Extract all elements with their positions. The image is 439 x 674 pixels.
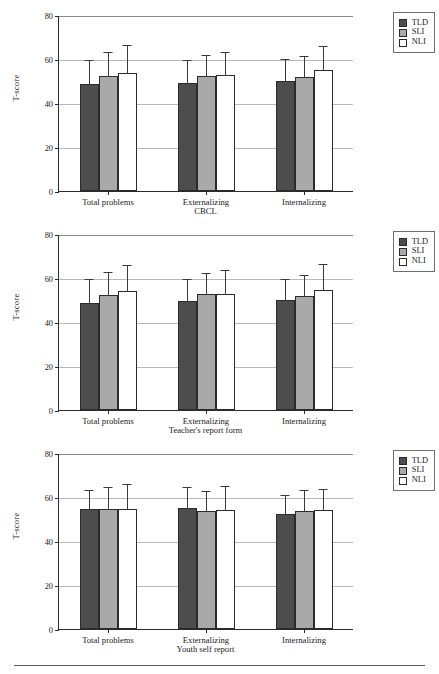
legend-item-sli[interactable]: SLI (399, 28, 428, 36)
bar-nli[interactable] (314, 454, 333, 629)
bar-rect (197, 511, 216, 629)
bar-tld[interactable] (178, 16, 197, 191)
bar-rect (118, 73, 137, 191)
y-tick-label: 20 (45, 363, 59, 372)
y-tick-label: 0 (49, 407, 59, 416)
legend-swatch-icon (399, 258, 407, 266)
bar-rect (197, 294, 216, 410)
x-tick-mark (304, 191, 305, 195)
bar-rect (80, 84, 99, 191)
error-bar-cap (281, 279, 290, 280)
error-bar (225, 486, 226, 512)
x-axis-title: CBCL (58, 206, 353, 216)
error-bar-cap (183, 487, 192, 488)
bar-tld[interactable] (276, 16, 295, 191)
error-bar (285, 59, 286, 82)
legend-item-sli[interactable]: SLI (399, 466, 428, 474)
error-bar (304, 490, 305, 512)
error-bar-cap (85, 279, 94, 280)
bar-sli[interactable] (197, 454, 216, 629)
bar-sli[interactable] (295, 454, 314, 629)
error-bar (108, 487, 109, 510)
error-bar (285, 495, 286, 515)
error-bar (187, 487, 188, 510)
legend-swatch-icon (399, 457, 407, 465)
bars (255, 454, 353, 629)
bar-tld[interactable] (178, 454, 197, 629)
legend-item-nli[interactable]: NLI (399, 38, 428, 46)
error-bar-cap (319, 489, 328, 490)
bar-nli[interactable] (216, 235, 235, 410)
bars (255, 235, 353, 410)
error-bar (323, 46, 324, 72)
bar-nli[interactable] (118, 16, 137, 191)
error-bar-cap (221, 52, 230, 53)
legend-item-sli[interactable]: SLI (399, 247, 428, 255)
error-bar-cap (104, 272, 113, 273)
bar-sli[interactable] (99, 16, 118, 191)
bar-rect (178, 508, 197, 629)
error-bar (127, 265, 128, 293)
bar-tld[interactable] (178, 235, 197, 410)
error-bar-cap (104, 487, 113, 488)
legend-item-tld[interactable]: TLD (399, 457, 428, 465)
bar-sli[interactable] (99, 454, 118, 629)
bar-rect (314, 290, 333, 410)
bars (59, 454, 157, 629)
bar-sli[interactable] (197, 16, 216, 191)
bar-tld[interactable] (276, 235, 295, 410)
y-axis-title: T-score (11, 75, 21, 102)
bottom-rule (14, 665, 425, 666)
error-bar (323, 264, 324, 290)
legend-item-nli[interactable]: NLI (399, 476, 428, 484)
bar-nli[interactable] (216, 16, 235, 191)
bar-rect (216, 75, 235, 191)
bar-tld[interactable] (80, 454, 99, 629)
bar-rect (80, 509, 99, 629)
legend-item-tld[interactable]: TLD (399, 238, 428, 246)
bar-rect (118, 509, 137, 629)
error-bar-cap (104, 52, 113, 53)
legend-swatch-icon (399, 248, 407, 256)
error-bar (206, 273, 207, 295)
bar-sli[interactable] (295, 235, 314, 410)
legend-item-nli[interactable]: NLI (399, 257, 428, 265)
legend-label: SLI (412, 247, 425, 255)
bar-tld[interactable] (80, 235, 99, 410)
bar-tld[interactable] (80, 16, 99, 191)
bar-nli[interactable] (118, 235, 137, 410)
bar-tld[interactable] (276, 454, 295, 629)
error-bar-cap (202, 55, 211, 56)
bar-nli[interactable] (314, 235, 333, 410)
legend-swatch-icon (399, 477, 407, 485)
bar-nli[interactable] (118, 454, 137, 629)
x-tick-mark (206, 410, 207, 414)
error-bar-cap (202, 273, 211, 274)
error-bar-cap (281, 59, 290, 60)
legend-swatch-icon (399, 39, 407, 47)
bar-rect (118, 291, 137, 410)
legend-item-tld[interactable]: TLD (399, 19, 428, 27)
error-bar (127, 484, 128, 510)
bar-rect (314, 510, 333, 629)
bar-nli[interactable] (216, 454, 235, 629)
bar-rect (80, 303, 99, 410)
chart-panel-teachers-report-form: 020406080Total problemsExternalizingInte… (0, 219, 439, 438)
legend-label: TLD (412, 457, 428, 465)
bar-sli[interactable] (295, 16, 314, 191)
bars (59, 16, 157, 191)
error-bar-cap (300, 275, 309, 276)
bar-sli[interactable] (99, 235, 118, 410)
error-bar-cap (300, 56, 309, 57)
error-bar-cap (123, 45, 132, 46)
error-bar-cap (183, 279, 192, 280)
bar-nli[interactable] (314, 16, 333, 191)
legend-label: TLD (412, 238, 428, 246)
bar-rect (99, 295, 118, 410)
error-bar (304, 56, 305, 78)
bar-sli[interactable] (197, 235, 216, 410)
plot-area: 020406080Total problemsExternalizingInte… (58, 235, 353, 411)
error-bar-cap (85, 60, 94, 61)
plot-area: 020406080Total problemsExternalizingInte… (58, 454, 353, 630)
y-tick-label: 0 (49, 188, 59, 197)
